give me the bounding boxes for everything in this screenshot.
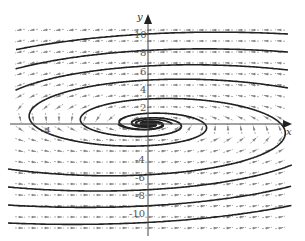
arrowhead-icon — [121, 95, 126, 98]
arrowhead-icon — [264, 106, 269, 109]
arrowhead-icon — [160, 73, 165, 76]
arrowhead-icon — [123, 183, 128, 186]
arrowhead-icon — [266, 183, 271, 186]
solution-curve — [8, 206, 291, 225]
arrowhead-icon — [186, 62, 191, 65]
arrowhead-icon — [110, 172, 115, 175]
arrowhead-icon — [188, 183, 193, 186]
arrowhead-icon — [279, 183, 284, 186]
arrowhead-icon — [240, 227, 245, 230]
arrowhead-icon — [71, 172, 76, 175]
arrowhead-icon — [84, 150, 89, 153]
y-tick-label: 2 — [140, 102, 146, 113]
arrowhead-icon — [69, 83, 74, 86]
arrowhead-icon — [212, 51, 217, 54]
arrowhead-icon — [19, 172, 24, 175]
arrowhead-icon — [175, 183, 180, 186]
arrowhead-icon — [160, 51, 165, 54]
arrowhead-icon — [175, 139, 180, 142]
arrowhead-icon — [212, 62, 217, 65]
arrowhead-icon — [162, 150, 167, 153]
arrowhead-icon — [173, 117, 178, 120]
arrowhead-icon — [264, 73, 269, 76]
arrowhead-icon — [18, 127, 23, 131]
arrowhead-icon — [147, 95, 152, 98]
arrowhead-icon — [97, 227, 102, 230]
arrowhead-icon — [69, 94, 74, 97]
arrowhead-icon — [278, 149, 283, 152]
arrowhead-icon — [32, 161, 37, 164]
arrowhead-icon — [58, 161, 63, 164]
x-tick-label: -4 — [41, 125, 51, 136]
arrowhead-icon — [160, 95, 165, 98]
arrowhead-icon — [160, 40, 165, 43]
arrowhead-icon — [95, 73, 100, 76]
arrowhead-icon — [45, 138, 50, 140]
arrowhead-icon — [266, 194, 271, 197]
arrowhead-icon — [277, 73, 282, 76]
arrowhead-icon — [69, 105, 74, 108]
arrowhead-icon — [45, 194, 50, 197]
arrowhead-icon — [227, 172, 232, 175]
arrowhead-icon — [199, 117, 204, 120]
arrowhead-icon — [97, 161, 102, 164]
y-tick-label: -10 — [129, 208, 145, 219]
arrowhead-icon — [173, 62, 178, 65]
arrowhead-icon — [110, 227, 115, 230]
arrowhead-icon — [251, 40, 256, 43]
solution-curve — [8, 99, 285, 176]
arrowhead-icon — [251, 84, 256, 87]
arrowhead-icon — [97, 172, 102, 175]
arrowhead-icon — [175, 150, 180, 153]
arrowhead-icon — [188, 205, 193, 208]
arrowhead-icon — [186, 29, 191, 32]
arrowhead-icon — [71, 194, 76, 197]
arrowhead-icon — [57, 127, 62, 130]
arrowhead-icon — [108, 105, 113, 108]
arrowhead-icon — [70, 127, 75, 130]
arrowhead-icon — [277, 29, 282, 32]
arrowhead-icon — [199, 29, 204, 32]
arrowhead-icon — [147, 84, 152, 87]
arrowhead-icon — [227, 205, 232, 208]
arrowhead-icon — [173, 29, 178, 32]
arrowhead-icon — [186, 40, 191, 43]
y-tick-label: -4 — [135, 154, 145, 165]
arrowhead-icon — [82, 94, 87, 96]
arrowhead-icon — [173, 51, 178, 54]
arrowhead-icon — [97, 139, 102, 142]
arrowhead-icon — [173, 95, 178, 98]
arrowhead-icon — [201, 194, 206, 197]
arrowhead-icon — [227, 150, 232, 153]
arrowhead-icon — [240, 126, 243, 131]
arrowhead-icon — [173, 84, 178, 87]
arrowhead-icon — [95, 62, 100, 65]
arrowhead-icon — [214, 205, 219, 208]
arrowhead-icon — [30, 61, 35, 64]
arrowhead-icon — [84, 194, 89, 197]
y-tick-label: -6 — [135, 172, 145, 183]
arrowhead-icon — [123, 150, 128, 153]
arrowhead-icon — [187, 126, 191, 131]
y-tick-label: 10 — [134, 29, 147, 40]
arrowhead-icon — [214, 150, 219, 152]
arrowhead-icon — [214, 126, 217, 131]
arrowhead-icon — [17, 72, 22, 75]
arrowhead-icon — [30, 94, 35, 97]
arrowhead-icon — [253, 172, 258, 175]
arrowhead-icon — [253, 161, 258, 164]
arrowhead-icon — [108, 62, 113, 65]
arrowhead-icon — [71, 216, 76, 219]
arrowhead-icon — [160, 29, 165, 32]
arrowhead-icon — [45, 227, 50, 230]
y-axis-arrow-icon — [144, 14, 152, 24]
arrowhead-icon — [212, 117, 217, 120]
arrowhead-icon — [188, 150, 193, 153]
arrowhead-icon — [123, 227, 128, 230]
arrowhead-icon — [186, 106, 191, 109]
arrowhead-icon — [71, 150, 76, 153]
arrowhead-icon — [19, 216, 24, 219]
arrowhead-icon — [227, 227, 232, 230]
y-tick-label: 6 — [140, 66, 146, 77]
arrowhead-icon — [199, 73, 204, 76]
